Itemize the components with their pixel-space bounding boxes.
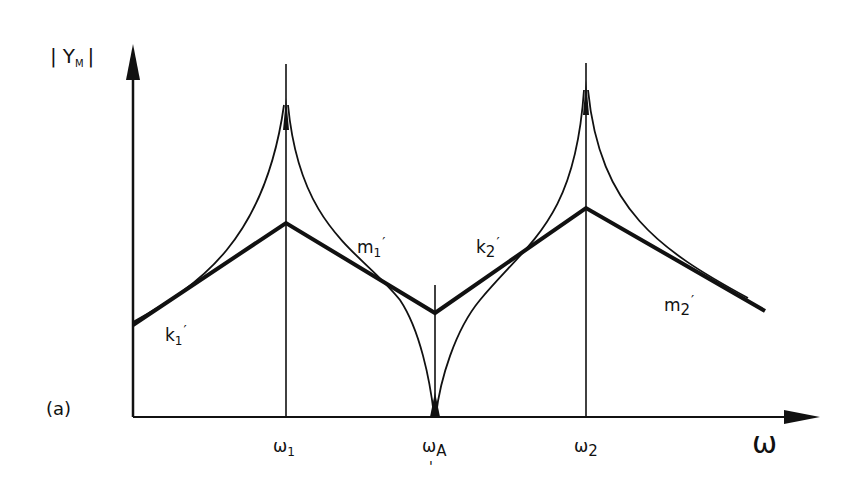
y-symbol: Y (63, 44, 75, 68)
exact-curve-falling-1 (288, 105, 434, 415)
segment-label-m1: m1′ (357, 234, 385, 260)
tick-symbol: ω (422, 436, 436, 456)
seg-prime: ′ (691, 292, 694, 308)
tick-subscript: A (436, 442, 446, 460)
diagram-canvas (0, 0, 860, 497)
segment-label-k1: k1′ (165, 322, 187, 348)
exact-curve-rising-2 (436, 90, 584, 415)
segment-label-k2: k2′ (476, 234, 500, 261)
seg-subscript: 2 (681, 301, 691, 319)
seg-symbol: m (664, 295, 681, 315)
x-tick-omega2: ω2 (574, 436, 598, 460)
tick-subscript: 1 (287, 445, 295, 459)
x-axis-label: ω (752, 425, 777, 460)
x-axis-arrow-icon (784, 410, 820, 424)
abs-bar-left: | (50, 44, 57, 68)
seg-subscript: 1 (175, 334, 183, 348)
y-axis-arrow-icon (126, 44, 140, 80)
y-subscript: M (75, 58, 84, 69)
panel-label: (a) (46, 398, 71, 419)
seg-prime: ′ (496, 234, 499, 250)
x-tick-omegaA: ωA (422, 436, 447, 460)
y-axis-label: |YM| (50, 44, 94, 69)
seg-prime: ′ (382, 234, 385, 250)
tick-symbol: ω (273, 436, 287, 456)
seg-symbol: k (165, 325, 175, 345)
tick-subscript: 2 (588, 442, 598, 460)
seg-symbol: k (476, 237, 486, 257)
seg-prime: ′ (184, 322, 187, 338)
segment-label-m2: m2′ (664, 292, 694, 319)
x-tick-omegaA-mark: ' (429, 458, 433, 474)
seg-subscript: 1 (374, 246, 382, 260)
abs-bar-right: | (88, 44, 95, 68)
exact-curve-falling-2 (588, 90, 748, 298)
tick-symbol: ω (574, 436, 588, 456)
exact-curve-rising-1 (133, 105, 284, 322)
x-tick-omega1: ω1 (273, 436, 295, 459)
seg-subscript: 2 (486, 243, 496, 261)
seg-symbol: m (357, 237, 374, 257)
